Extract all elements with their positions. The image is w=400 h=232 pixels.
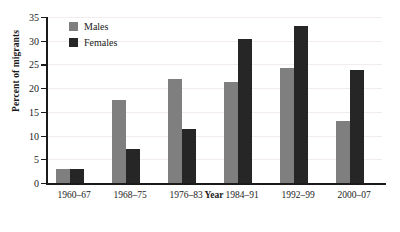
y-tick-label: 5 [34, 154, 39, 165]
y-tick-label: 10 [29, 130, 39, 141]
bar-males-0[interactable] [56, 169, 70, 183]
y-tick-label: 25 [29, 59, 39, 70]
legend-label: Males [84, 21, 108, 32]
bar-group [270, 17, 326, 183]
y-tick-mark [41, 64, 46, 65]
bar-group [158, 17, 214, 183]
bar-females-2[interactable] [182, 129, 196, 183]
legend-swatch-icon [69, 22, 78, 31]
bar-females-5[interactable] [350, 70, 364, 183]
y-tick-mark [41, 112, 46, 113]
y-tick-mark [41, 88, 46, 89]
bar-females-0[interactable] [70, 169, 84, 183]
bar-males-1[interactable] [112, 100, 126, 183]
y-tick-mark [41, 136, 46, 137]
legend-entry-females[interactable]: Females [69, 37, 117, 48]
y-tick-label: 0 [34, 178, 39, 189]
y-tick-mark [41, 183, 46, 184]
bar-males-3[interactable] [224, 82, 238, 183]
bar-males-2[interactable] [168, 79, 182, 183]
legend-entry-males[interactable]: Males [69, 21, 117, 32]
bar-chart: Percent of migrants 05101520253035 1960–… [0, 0, 400, 232]
y-tick-mark [41, 41, 46, 42]
y-tick-label: 15 [29, 106, 39, 117]
y-tick-label: 20 [29, 83, 39, 94]
y-axis-line [46, 17, 48, 183]
bar-group [326, 17, 382, 183]
x-axis-line [46, 183, 386, 185]
bar-females-4[interactable] [294, 26, 308, 183]
y-tick-label: 35 [29, 12, 39, 23]
y-tick-mark [41, 17, 46, 18]
legend-label: Females [84, 37, 117, 48]
y-axis-title: Percent of migrants [11, 1, 21, 141]
bar-females-1[interactable] [126, 149, 140, 183]
bar-males-4[interactable] [280, 68, 294, 183]
legend: MalesFemales [69, 21, 117, 53]
legend-swatch-icon [69, 38, 78, 47]
y-tick-mark [41, 159, 46, 160]
bar-group [214, 17, 270, 183]
y-tick-label: 30 [29, 35, 39, 46]
bar-males-5[interactable] [336, 121, 350, 183]
x-axis-title: Year [46, 190, 382, 200]
bar-females-3[interactable] [238, 39, 252, 183]
